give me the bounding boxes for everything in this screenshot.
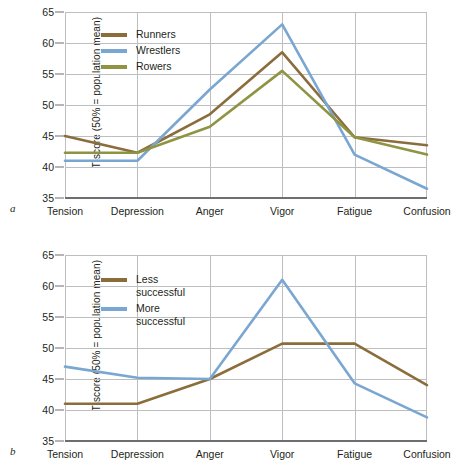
- y-tick-label: 45: [42, 130, 54, 142]
- y-tick-mark: [55, 105, 64, 106]
- legend-color-swatch: [101, 33, 127, 37]
- y-tick-mark: [55, 198, 64, 199]
- legend-item: Runners: [101, 28, 180, 41]
- y-tick-label: 60: [42, 37, 54, 49]
- legend-color-swatch: [101, 278, 127, 282]
- y-tick-mark: [55, 348, 64, 349]
- x-tick-label: Depression: [111, 448, 164, 460]
- y-tick-mark: [55, 286, 64, 287]
- legend-label: Rowers: [136, 60, 172, 73]
- y-tick-label: 45: [42, 373, 54, 385]
- y-tick-mark: [55, 410, 64, 411]
- legend-item: Less successful: [101, 273, 185, 299]
- y-tick-mark: [55, 12, 64, 13]
- legend-label: Runners: [136, 28, 176, 41]
- x-tick-label: Confusion: [403, 448, 450, 460]
- y-tick-mark: [55, 74, 64, 75]
- x-tick-label: Anger: [196, 205, 224, 217]
- y-tick-label: 35: [42, 435, 54, 447]
- x-axis-line-b: [65, 440, 427, 442]
- x-tick-label: Tension: [47, 205, 83, 217]
- legend-item: More successful: [101, 302, 185, 328]
- y-tick-mark: [55, 167, 64, 168]
- y-tick-mark: [55, 379, 64, 380]
- x-axis-line-a: [65, 197, 427, 199]
- legend-label: Less successful: [136, 273, 185, 299]
- panel-letter-b: b: [10, 445, 16, 457]
- legend-label: More successful: [136, 302, 185, 328]
- x-tick-label: Anger: [196, 448, 224, 460]
- y-tick-mark: [55, 136, 64, 137]
- y-tick-label: 65: [42, 249, 54, 261]
- legend-item: Wrestlers: [101, 44, 180, 57]
- legend-item: Rowers: [101, 60, 180, 73]
- legend-color-swatch: [101, 65, 127, 69]
- y-tick-label: 40: [42, 404, 54, 416]
- y-tick-label: 55: [42, 68, 54, 80]
- x-tick-label: Confusion: [403, 205, 450, 217]
- y-tick-label: 65: [42, 6, 54, 18]
- x-tick-label: Vigor: [270, 205, 294, 217]
- y-tick-mark: [55, 43, 64, 44]
- x-tick-label: Tension: [47, 448, 83, 460]
- y-tick-label: 60: [42, 280, 54, 292]
- legend-label: Wrestlers: [136, 44, 180, 57]
- plot-area-a: T-score (50% = population mean) 35404550…: [65, 12, 427, 198]
- y-tick-label: 50: [42, 99, 54, 111]
- y-tick-mark: [55, 441, 64, 442]
- x-tick-label: Fatigue: [337, 205, 372, 217]
- chart-panel-b: b T-score (50% = population mean) 354045…: [0, 243, 440, 475]
- y-tick-mark: [55, 317, 64, 318]
- x-tick-label: Depression: [111, 205, 164, 217]
- panel-letter-a: a: [10, 202, 16, 214]
- y-tick-label: 40: [42, 161, 54, 173]
- y-tick-mark: [55, 255, 64, 256]
- chart-panel-a: a T-score (50% = population mean) 354045…: [0, 0, 440, 232]
- y-tick-label: 50: [42, 342, 54, 354]
- y-tick-label: 55: [42, 311, 54, 323]
- legend-color-swatch: [101, 49, 127, 53]
- x-tick-label: Vigor: [270, 448, 294, 460]
- legend-a: RunnersWrestlersRowers: [101, 28, 180, 76]
- y-tick-label: 35: [42, 192, 54, 204]
- plot-area-b: T-score (50% = population mean) 35404550…: [65, 255, 427, 441]
- legend-color-swatch: [101, 307, 127, 311]
- x-tick-label: Fatigue: [337, 448, 372, 460]
- legend-b: Less successfulMore successful: [101, 273, 185, 331]
